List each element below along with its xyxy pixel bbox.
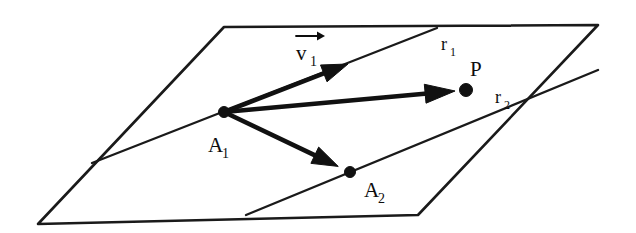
vector-a1-to-p-shaft: [224, 94, 427, 112]
vector-a1-to-a2-shaft: [224, 112, 317, 156]
vector-a1-to-a2-arrowhead: [311, 147, 338, 166]
label-v1-base: v: [296, 41, 307, 65]
label-point-a1: A 1: [208, 133, 229, 161]
figure-canvas: v 1 r 1 P r 2 A 1 A 2: [0, 0, 636, 233]
point-p-dot: [460, 84, 473, 97]
vector-overhead-arrow-icon: [296, 32, 325, 41]
plane-parallelogram: [38, 25, 598, 224]
label-p-base: P: [470, 57, 482, 81]
vector-v1-arrowhead: [321, 64, 348, 82]
vector-a1-to-a2: [224, 112, 338, 166]
label-vector-v1: v 1: [296, 32, 325, 70]
label-a2-subscript: 2: [378, 191, 385, 206]
vector-a1-to-p-arrowhead: [424, 84, 455, 103]
label-point-a2: A 2: [364, 178, 385, 206]
geometry-figure: v 1 r 1 P r 2 A 1 A 2: [0, 0, 636, 233]
label-r2-subscript: 2: [504, 98, 510, 112]
point-a1-dot: [219, 107, 230, 118]
label-r2-base: r: [495, 87, 501, 107]
label-ray-r1: r 1: [441, 34, 456, 59]
label-v1-subscript: 1: [310, 54, 317, 69]
plane-outline: [38, 25, 598, 224]
label-r1-base: r: [441, 34, 447, 54]
point-a2-dot: [345, 167, 356, 178]
label-a1-subscript: 1: [222, 146, 229, 161]
label-point-p: P: [470, 57, 482, 81]
label-r1-subscript: 1: [450, 45, 456, 59]
